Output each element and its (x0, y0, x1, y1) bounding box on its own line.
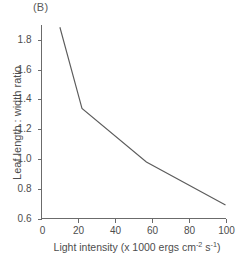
data-series-line (60, 27, 226, 205)
y-axis-ticks (38, 41, 42, 220)
figure-panel-b: (B) Leaf length : width ratio Light inte… (0, 0, 243, 260)
x-axis-ticks (79, 219, 227, 223)
plot-area (0, 0, 243, 260)
axes-group (38, 25, 227, 223)
